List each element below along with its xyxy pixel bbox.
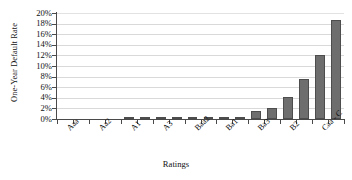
y-axis-tick-label: 12% [18,51,52,60]
x-axis-tick [312,120,313,124]
y-axis-tick [52,108,57,109]
y-axis-tick-label: 20% [18,9,52,18]
y-axis-tick-label: 14% [18,40,52,49]
x-axis-tick [248,120,249,124]
x-axis-tick [57,120,58,124]
bar [140,117,150,119]
bar [156,117,166,119]
y-axis-tick-labels: 20%18%16%14%12%10%8%6%4%2%0% [14,0,52,180]
bar [219,117,229,119]
y-axis-tick-label: 16% [18,30,52,39]
y-axis-tick-label: 0% [18,115,52,124]
plot-area [57,13,344,119]
y-axis-tick-label: 2% [18,104,52,113]
y-axis-tick [52,98,57,99]
y-axis-tick-label: 18% [18,19,52,28]
bar [124,117,134,119]
bar [283,97,293,119]
gridline [57,24,344,25]
bar-chart: One-Year Default Rate 20%18%16%14%12%10%… [0,0,352,180]
bar [188,117,198,119]
y-axis-tick-label: 4% [18,93,52,102]
x-axis-tick [89,120,90,124]
bar [315,55,325,119]
y-axis-tick-label: 6% [18,83,52,92]
x-axis-tick-label: A3 [161,119,174,132]
bar [172,117,182,119]
gridline [57,77,344,78]
x-axis-tick [185,120,186,124]
x-axis-tick-label: B2 [288,119,301,132]
y-axis-tick-label: 8% [18,72,52,81]
x-axis-title: Ratings [0,159,352,169]
x-axis-tick [121,120,122,124]
x-axis-tick [216,120,217,124]
y-axis-tick [52,66,57,67]
y-axis-tick [52,24,57,25]
gridline [57,66,344,67]
x-axis-tick-label: A1 [129,119,142,132]
bar [331,20,341,119]
x-axis-tick [153,120,154,124]
y-axis-tick [52,13,57,14]
bar [299,79,309,119]
x-axis-tick [344,120,345,124]
gridline [57,34,344,35]
gridline [57,13,344,14]
y-axis-tick [52,45,57,46]
bar [267,108,277,119]
bar [235,117,245,119]
y-axis-tick [52,87,57,88]
y-axis-tick [52,34,57,35]
gridline [57,45,344,46]
y-axis-tick [52,55,57,56]
y-axis-tick-label: 10% [18,62,52,71]
gridline [57,55,344,56]
y-axis-tick [52,77,57,78]
bar [251,111,261,119]
x-axis-tick [280,120,281,124]
